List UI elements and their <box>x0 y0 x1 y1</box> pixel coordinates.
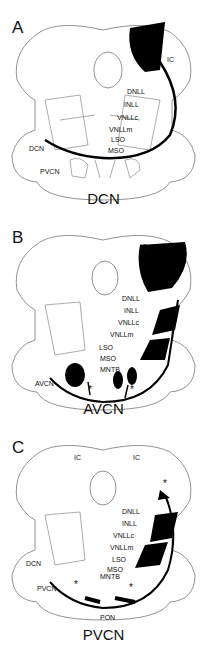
panel-a: A IC DNLL INLL VNLLc VNLLm LSO MSO DCN P… <box>0 0 207 210</box>
panel-letter: B <box>12 228 23 248</box>
label-vnllc: VNLLc <box>113 532 134 540</box>
panel-letter: C <box>12 438 24 458</box>
label-avcn: AVCN <box>35 380 54 388</box>
label-dcn: DCN <box>29 145 44 153</box>
label-lso: LSO <box>112 556 126 564</box>
label-ic: IC <box>167 56 174 64</box>
star-marker: * <box>130 386 134 394</box>
label-ic-right: IC <box>133 454 140 462</box>
label-inll: INLL <box>124 101 139 109</box>
panel-b: B IC DNLL INLL VNLLc VNLLm LSO MSO MNTB … <box>0 210 207 420</box>
brainstem-outline-a <box>0 0 207 210</box>
panel-title: AVCN <box>0 400 207 417</box>
label-vnllm: VNLLm <box>109 126 132 134</box>
panel-letter: A <box>12 18 23 38</box>
brainstem-outline-b <box>0 210 207 420</box>
label-vnllm: VNLLm <box>110 331 133 339</box>
label-dnll: DNLL <box>127 88 145 96</box>
label-dcn: DCN <box>26 560 41 568</box>
label-lso: LSO <box>111 136 125 144</box>
label-vnllc: VNLLc <box>117 114 138 122</box>
panel-title: PVCN <box>0 626 207 643</box>
label-mntb: MNTB <box>100 366 120 374</box>
label-mntb: MNTB <box>100 573 120 581</box>
label-lso: LSO <box>99 344 113 352</box>
label-vnllc: VNLLc <box>118 319 139 327</box>
star-marker: * <box>163 480 167 488</box>
star-marker: * <box>129 584 133 592</box>
label-ic-left: IC <box>74 454 81 462</box>
label-vnllm: VNLLm <box>110 544 133 552</box>
label-mso: MSO <box>100 355 116 363</box>
star-marker: * <box>88 386 92 394</box>
star-marker: * <box>74 581 78 589</box>
label-pvcn: PVCN <box>37 585 56 593</box>
label-mso: MSO <box>108 147 124 155</box>
label-inll: INLL <box>122 520 137 528</box>
label-dnll: DNLL <box>122 508 140 516</box>
panel-c: C IC IC * DNLL INLL VNLLc VNLLm LSO MSO … <box>0 420 207 648</box>
panel-title: DCN <box>0 190 207 207</box>
label-inll: INLL <box>124 307 139 315</box>
label-pon: PON <box>100 614 115 622</box>
label-ic: IC <box>140 243 147 251</box>
label-dnll: DNLL <box>122 295 140 303</box>
label-pvcn: PVCN <box>40 168 59 176</box>
